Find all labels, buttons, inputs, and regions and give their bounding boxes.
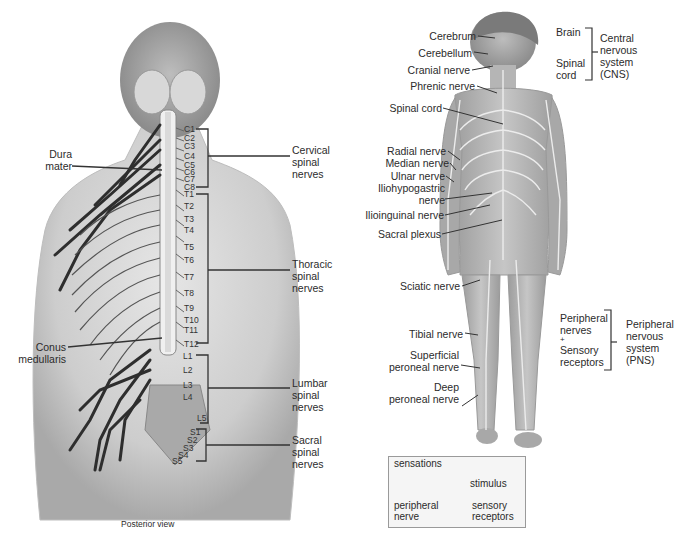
label-line: Sensory (560, 344, 608, 356)
cns-spinal-cord-label: Spinal cord (556, 57, 585, 81)
cns-title: Central nervous system (CNS) (600, 32, 637, 80)
segment-t2: T2 (184, 202, 194, 211)
segment-s5: S5 (172, 457, 182, 466)
label-line: nerves (292, 282, 332, 294)
label-line: receptors (560, 356, 608, 368)
segment-l2: L2 (183, 366, 192, 375)
label-line: Superficial (380, 349, 459, 361)
cerebrum-label: Cerebrum (380, 30, 476, 42)
segment-l3: L3 (183, 381, 192, 390)
conus-medullaris-label: Conus medullaris (8, 341, 66, 365)
cerebellum-label: Cerebellum (380, 47, 472, 59)
label-line: peroneal nerve (380, 393, 459, 405)
dura-mater-label: Dura mater (26, 148, 72, 172)
cranial-nerve-label: Cranial nerve (370, 64, 470, 76)
label-line: nerves (292, 168, 330, 180)
sciatic-nerve-label: Sciatic nerve (380, 280, 460, 292)
label-line: + (560, 336, 608, 344)
segment-t9: T9 (184, 304, 194, 313)
label-line: sensory (472, 500, 514, 511)
radial-nerve-label: Radial nerve (360, 145, 446, 157)
label-line: nerve (360, 194, 445, 206)
median-nerve-label: Median nerve (360, 157, 449, 169)
nervous-system-illustration (0, 0, 690, 540)
label-line: Dura (26, 148, 72, 160)
pns-components-label: Peripheral nerves + Sensory receptors (560, 312, 608, 368)
label-line: Lumbar (292, 377, 328, 389)
label-line: Central (600, 32, 637, 44)
label-line: nerves (292, 401, 328, 413)
label-line: receptors (472, 511, 514, 522)
label-line: system (600, 56, 637, 68)
thoracic-spinal-nerves-label: Thoracic spinal nerves (292, 258, 332, 294)
tibial-nerve-label: Tibial nerve (380, 328, 463, 340)
label-line: nervous (626, 330, 674, 342)
cns-bracket (585, 28, 598, 80)
spinal-cord-label: Spinal cord (360, 102, 442, 114)
sacral-spinal-nerves-label: Sacral spinal nerves (292, 434, 324, 470)
label-line: system (626, 342, 674, 354)
label-line: nerves (292, 458, 324, 470)
label-line: peroneal nerve (380, 361, 459, 373)
inset-stimulus-label: stimulus (470, 478, 507, 490)
cns-brain-label: Brain (556, 26, 581, 38)
segment-l1: L1 (183, 352, 192, 361)
label-line: spinal (292, 389, 328, 401)
label-line: Conus (8, 341, 66, 353)
label-line: spinal (292, 446, 324, 458)
label-line: peripheral (394, 500, 438, 511)
segment-t8: T8 (184, 289, 194, 298)
segment-t4: T4 (184, 226, 194, 235)
label-line: spinal (292, 270, 332, 282)
label-line: (CNS) (600, 68, 637, 80)
label-line: Cervical (292, 144, 330, 156)
label-line: nerve (394, 511, 438, 522)
label-line: Iliohypogastric (360, 182, 445, 194)
segment-t7: T7 (184, 273, 194, 282)
sacral-plexus-label: Sacral plexus (360, 228, 441, 240)
segment-t3: T3 (184, 215, 194, 224)
label-line: Peripheral (626, 318, 674, 330)
label-line: medullaris (8, 353, 66, 365)
superficial-peroneal-nerve-label: Superficial peroneal nerve (380, 349, 459, 373)
pns-title: Peripheral nervous system (PNS) (626, 318, 674, 366)
phrenic-nerve-label: Phrenic nerve (370, 80, 475, 92)
label-line: cord (556, 69, 585, 81)
segment-t10: T10 (184, 316, 199, 325)
segment-c3: C3 (184, 142, 195, 151)
label-line: Thoracic (292, 258, 332, 270)
label-line: Sacral (292, 434, 324, 446)
label-line: mater (26, 160, 72, 172)
segment-t11: T11 (184, 326, 198, 335)
label-line: Spinal (556, 57, 585, 69)
label-line: spinal (292, 156, 330, 168)
cervical-spinal-nerves-label: Cervical spinal nerves (292, 144, 330, 180)
segment-t1: T1 (184, 190, 194, 199)
label-line: (PNS) (626, 354, 674, 366)
inset-sensory-receptors-label: sensory receptors (472, 500, 514, 522)
ilioinguinal-nerve-label: Ilioinguinal nerve (355, 209, 444, 221)
label-line: nerves (560, 324, 608, 336)
lumbar-spinal-nerves-label: Lumbar spinal nerves (292, 377, 328, 413)
iliohypogastric-nerve-label: Iliohypogastric nerve (360, 182, 445, 206)
label-line: Peripheral (560, 312, 608, 324)
segment-l4: L4 (183, 393, 192, 402)
segment-t12: T12 (184, 340, 199, 349)
label-line: nervous (600, 44, 637, 56)
inset-sensations-label: sensations (394, 458, 442, 470)
label-line: Deep (380, 381, 459, 393)
inset-peripheral-nerve-label: peripheral nerve (394, 500, 438, 522)
deep-peroneal-nerve-label: Deep peroneal nerve (380, 381, 459, 405)
segment-t6: T6 (184, 256, 194, 265)
segment-t5: T5 (184, 243, 194, 252)
posterior-view-caption: Posterior view (121, 519, 174, 529)
ulnar-nerve-label: Ulnar nerve (360, 170, 445, 182)
segment-l5: L5 (197, 414, 206, 423)
